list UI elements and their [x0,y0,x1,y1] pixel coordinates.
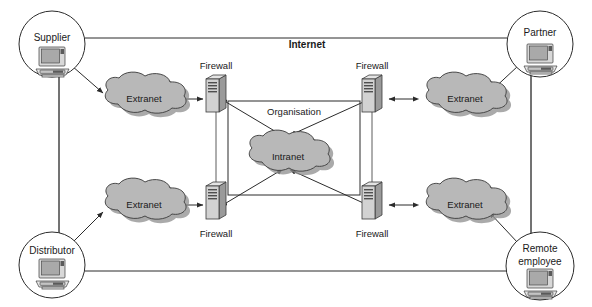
network-diagram: Internet Organisation [0,0,592,307]
extranet-bottom-right-label: Extranet [447,199,483,210]
firewall-top-left: Firewall [200,60,233,112]
internet-label: Internet [289,39,326,50]
link-intranet-firewall-br [295,172,370,206]
link-intranet-firewall-bl [221,172,278,206]
extranet-top-left-label: Extranet [126,93,162,104]
link-distributor-extranet [72,212,103,243]
extranet-bottom-left: Extranet [105,178,190,223]
server-icon [362,182,382,219]
node-supplier: Supplier [19,11,85,77]
organisation-label: Organisation [267,106,321,117]
server-icon [206,75,226,112]
workstation-icon [524,269,557,299]
distributor-label: Distributor [29,245,75,256]
diagram-canvas: Internet Organisation [0,0,592,307]
link-supplier-extranet [72,66,103,93]
extranet-top-left: Extranet [105,72,190,117]
remote-employee-label-line2: employee [518,256,562,267]
node-distributor: Distributor [19,232,85,298]
extranet-top-right-label: Extranet [447,93,483,104]
workstation-icon [36,259,69,289]
firewall-top-left-label: Firewall [200,60,233,71]
firewall-bottom-right: Firewall [356,182,389,239]
server-icon [362,75,382,112]
firewall-top-right: Firewall [356,60,389,112]
supplier-label: Supplier [34,32,71,43]
extranet-bottom-right: Extranet [426,178,511,223]
server-icon [206,182,226,219]
extranet-bottom-left-label: Extranet [126,199,162,210]
workstation-icon [36,47,69,77]
intranet-label: Intranet [272,151,305,162]
firewall-bottom-left-label: Firewall [200,228,233,239]
firewall-bottom-left: Firewall [200,182,233,239]
intranet-cloud: Intranet [249,130,334,175]
firewall-bottom-right-label: Firewall [356,228,389,239]
workstation-icon [524,44,557,74]
partner-label: Partner [524,27,557,38]
extranet-top-right: Extranet [426,72,511,117]
node-remote-employee: Remote employee [506,232,574,300]
node-partner: Partner [507,11,573,77]
remote-employee-label-line1: Remote [522,243,557,254]
firewall-top-right-label: Firewall [356,60,389,71]
